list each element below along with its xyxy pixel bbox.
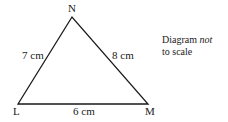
triangle-lmn (0, 0, 228, 122)
not-to-scale-note: Diagram not to scale (162, 34, 212, 58)
note-line2: to scale (162, 46, 192, 57)
note-emphasis: not (200, 34, 213, 45)
vertex-label-l: L (13, 106, 20, 117)
side-label-lm: 6 cm (73, 106, 95, 117)
vertex-label-n: N (68, 3, 76, 14)
side-label-ln: 7 cm (22, 50, 44, 61)
side-label-nm: 8 cm (112, 50, 134, 61)
vertex-label-m: M (145, 106, 155, 117)
note-prefix: Diagram (162, 34, 200, 45)
